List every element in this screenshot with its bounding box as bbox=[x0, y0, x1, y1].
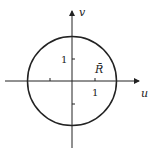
y-tick-label: 1 bbox=[61, 54, 67, 65]
u-axis-label: u bbox=[141, 87, 148, 100]
region-label: R̄ bbox=[94, 63, 103, 76]
v-axis-label: v bbox=[79, 6, 86, 19]
x-tick-label: 1 bbox=[92, 87, 98, 98]
diagram: 1 1 R̄ v u bbox=[0, 0, 151, 155]
